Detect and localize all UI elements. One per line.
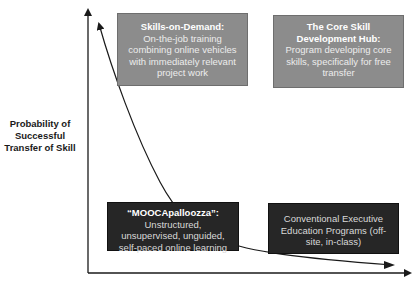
moocapalooza-description: Unstructured, unsupervised, unguided, se…: [119, 219, 227, 253]
conventional-exec-ed-box: Conventional Executive Education Program…: [268, 203, 399, 254]
conventional-exec-ed-description: Conventional Executive Education Program…: [281, 213, 386, 247]
moocapalooza-title: “MOOCApalloozza”:: [114, 207, 232, 219]
curve-end-arrow: [384, 261, 395, 269]
skills-on-demand-box: Skills-on-Demand: On-the-job training co…: [117, 13, 248, 86]
core-skill-hub-description: Program developing core skills, specific…: [285, 44, 391, 78]
y-axis-label: Probability of Successful Transfer of Sk…: [2, 118, 78, 154]
skills-on-demand-title: Skills-on-Demand:: [124, 21, 241, 33]
moocapalooza-box: “MOOCApalloozza”: Unstructured, unsuperv…: [107, 202, 239, 251]
skills-on-demand-description: On-the-job training combining online veh…: [128, 33, 236, 79]
core-skill-hub-title: The Core Skill Development Hub:: [280, 21, 397, 44]
core-skill-hub-box: The Core Skill Development Hub: Program …: [273, 15, 404, 88]
